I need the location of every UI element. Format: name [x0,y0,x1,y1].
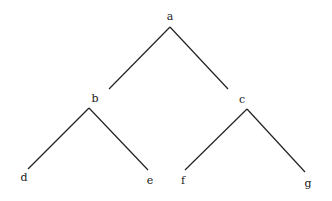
edge-c-f [185,109,247,170]
node-a: a [167,11,174,22]
node-d: d [20,172,27,183]
tree-edges [0,0,332,201]
node-b: b [91,93,98,104]
node-c: c [239,94,245,105]
node-e: e [147,175,154,186]
edge-b-e [89,108,148,170]
node-f: f [181,175,185,186]
tree-diagram: abcdefg [0,0,332,201]
edge-a-c [170,27,228,89]
edge-a-b [109,27,170,89]
edge-b-d [28,108,89,169]
edge-c-g [247,109,305,172]
node-g: g [304,178,311,189]
